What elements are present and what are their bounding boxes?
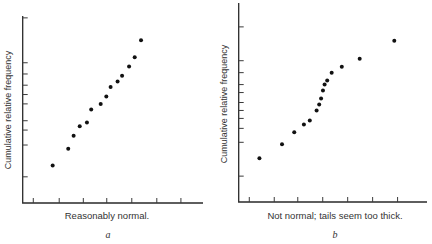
y-ticks-b [239, 27, 244, 176]
data-point-a-9 [109, 85, 113, 89]
data-point-a-4 [78, 124, 82, 128]
x-ticks-a [33, 198, 181, 203]
data-point-a-3 [72, 134, 76, 138]
x-axis-label-a: Reasonably normal. [65, 210, 150, 221]
panel-label-b: b [333, 229, 338, 240]
data-point-b-7 [317, 102, 321, 106]
data-point-b-6 [315, 108, 319, 112]
plot-b: Cumulative relative frequency Not normal… [219, 3, 427, 240]
data-point-a-13 [133, 55, 137, 59]
figure: Cumulative relative frequency Reasonably… [0, 0, 432, 244]
data-point-b-15 [392, 39, 396, 43]
data-point-b-4 [302, 122, 306, 126]
data-point-b-11 [325, 79, 329, 83]
data-point-a-12 [127, 64, 131, 68]
data-point-a-14 [139, 38, 143, 42]
data-point-a-6 [89, 108, 93, 112]
data-point-a-7 [99, 102, 103, 106]
data-point-b-13 [340, 65, 344, 69]
data-point-a-5 [85, 121, 89, 125]
panel-label-a: a [106, 229, 111, 240]
axes-frame-b [239, 3, 427, 202]
data-point-a-10 [116, 79, 120, 83]
y-axis-label-a: Cumulative relative frequency [3, 50, 13, 169]
points-b [257, 39, 396, 160]
plot-a: Cumulative relative frequency Reasonably… [3, 16, 203, 240]
data-point-b-3 [292, 130, 296, 134]
data-point-b-12 [330, 71, 334, 75]
data-point-b-10 [323, 83, 327, 87]
data-point-b-1 [257, 156, 261, 160]
data-point-a-8 [104, 94, 108, 98]
data-point-b-14 [358, 57, 362, 61]
data-point-b-8 [319, 97, 323, 101]
points-a [51, 38, 143, 167]
data-point-a-2 [66, 147, 70, 151]
data-point-b-5 [308, 118, 312, 122]
data-point-b-9 [321, 89, 325, 93]
axes-frame-a [23, 16, 203, 203]
y-ticks-a [23, 18, 28, 177]
data-point-a-11 [120, 74, 124, 78]
data-point-b-2 [280, 142, 284, 146]
y-axis-label-b: Cumulative relative frequency [219, 44, 229, 163]
x-axis-label-b: Not normal; tails seem too thick. [267, 210, 402, 221]
data-point-a-1 [51, 164, 55, 168]
x-ticks-b [249, 197, 397, 202]
